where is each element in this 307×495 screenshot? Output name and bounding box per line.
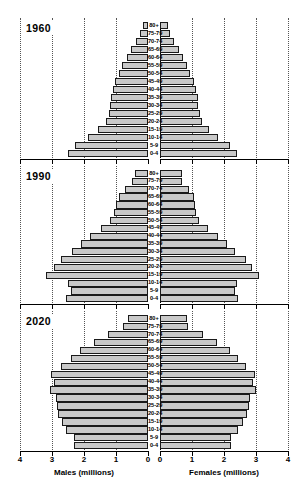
age-group-label: 45-49 — [148, 371, 160, 377]
age-group-label: 40-44 — [148, 233, 160, 239]
age-group-label: 50-54 — [148, 218, 160, 224]
bar-male-15-19 — [98, 126, 148, 133]
age-group-label: 55-59 — [148, 63, 160, 69]
bar-female-10-14 — [160, 426, 238, 433]
bar-female-10-14 — [160, 280, 237, 287]
bar-female-25-29 — [160, 256, 246, 263]
bar-female-0-4 — [160, 295, 238, 302]
age-group-label: 65-69 — [148, 339, 160, 345]
bar-female-45-49 — [160, 371, 255, 378]
bar-female-75-79 — [160, 178, 182, 185]
age-group-label: 25-29 — [148, 257, 160, 263]
age-group-label: 15-19 — [148, 127, 160, 133]
bar-male-80+ — [135, 170, 148, 177]
bar-female-35-39 — [160, 94, 198, 101]
age-group-label: 35-39 — [148, 241, 160, 247]
age-group-label: 10-14 — [148, 427, 160, 433]
tick-male-0 — [148, 304, 149, 309]
bar-female-5-9 — [160, 142, 230, 149]
bar-female-35-39 — [160, 386, 256, 393]
x-tick-label-row: 4321001234 — [0, 455, 307, 467]
bar-female-80+ — [160, 170, 182, 177]
x-tick-female-1: 1 — [182, 455, 202, 464]
bar-female-20-24 — [160, 410, 247, 417]
age-group-label: 65-69 — [148, 47, 160, 53]
bar-female-80+ — [160, 315, 187, 322]
age-group-label: 80+ — [148, 316, 160, 322]
age-group-label: 80+ — [148, 171, 160, 177]
bar-male-65-69 — [119, 193, 148, 200]
bar-male-0-4 — [74, 442, 148, 449]
bar-male-35-39 — [50, 386, 148, 393]
age-group-label: 60-64 — [148, 202, 160, 208]
age-group-label: 75-79 — [148, 178, 160, 184]
bar-male-40-44 — [113, 86, 148, 93]
bar-male-40-44 — [54, 379, 148, 386]
age-group-label: 30-34 — [148, 103, 160, 109]
tick-female-4 — [288, 159, 289, 164]
age-group-label: 55-59 — [148, 210, 160, 216]
bar-male-60-64 — [127, 54, 148, 61]
age-group-label: 5-9 — [148, 288, 160, 294]
age-group-label: 20-24 — [148, 264, 160, 270]
bar-male-20-24 — [58, 410, 148, 417]
age-group-label: 20-24 — [148, 119, 160, 125]
age-group-label: 30-34 — [148, 249, 160, 255]
age-group-label: 0-4 — [148, 296, 160, 302]
bar-male-0-4 — [66, 295, 148, 302]
bar-male-10-14 — [68, 280, 148, 287]
bar-female-30-34 — [160, 248, 235, 255]
age-group-label: 45-49 — [148, 225, 160, 231]
bar-female-0-4 — [160, 150, 237, 157]
tick-male-3 — [52, 159, 53, 164]
bar-female-70-74 — [160, 331, 203, 338]
axis-title-males: Males (millions) — [20, 468, 148, 477]
x-tick-female-4: 4 — [278, 455, 298, 464]
x-tick-female-0: 0 — [150, 455, 170, 464]
bar-female-10-14 — [160, 134, 218, 141]
bar-male-60-64 — [80, 347, 148, 354]
tick-female-4 — [288, 304, 289, 309]
bar-female-50-54 — [160, 70, 190, 77]
x-tick-female-3: 3 — [246, 455, 266, 464]
tick-male-2 — [84, 159, 85, 164]
bar-male-30-34 — [72, 248, 148, 255]
bar-female-20-24 — [160, 264, 252, 271]
x-tick-male-4: 4 — [10, 455, 30, 464]
bar-female-65-69 — [160, 46, 179, 53]
bar-male-55-59 — [122, 62, 148, 69]
age-group-label: 80+ — [148, 23, 160, 29]
bar-female-25-29 — [160, 110, 200, 117]
age-group-label: 5-9 — [148, 435, 160, 441]
bar-female-30-34 — [160, 102, 198, 109]
bar-male-5-9 — [75, 142, 148, 149]
bar-female-5-9 — [160, 287, 235, 294]
bar-male-45-49 — [101, 225, 148, 232]
age-group-label: 10-14 — [148, 135, 160, 141]
bar-male-10-14 — [88, 134, 148, 141]
axis-title-females: Females (millions) — [160, 468, 288, 477]
x-tick-male-2: 2 — [74, 455, 94, 464]
bar-male-45-49 — [51, 371, 148, 378]
bar-female-75-79 — [160, 323, 188, 330]
x-tick-male-3: 3 — [42, 455, 62, 464]
panel-2020: 0-45-910-1415-1920-2425-2930-3435-3940-4… — [0, 311, 307, 452]
bar-male-45-49 — [115, 78, 148, 85]
bar-male-75-79 — [123, 323, 148, 330]
bar-female-50-54 — [160, 217, 199, 224]
bar-male-80+ — [128, 315, 148, 322]
bar-male-70-74 — [125, 186, 148, 193]
bar-male-25-29 — [61, 256, 148, 263]
bar-female-15-19 — [160, 272, 259, 279]
tick-female-2 — [224, 159, 225, 164]
age-group-label: 40-44 — [148, 87, 160, 93]
bar-female-80+ — [160, 22, 168, 29]
bar-female-60-64 — [160, 201, 195, 208]
tick-female-1 — [192, 304, 193, 309]
age-group-label: 25-29 — [148, 111, 160, 117]
tick-female-2 — [224, 304, 225, 309]
bar-female-50-54 — [160, 363, 246, 370]
bar-female-45-49 — [160, 225, 208, 232]
bar-male-25-29 — [57, 402, 148, 409]
bar-female-30-34 — [160, 394, 250, 401]
